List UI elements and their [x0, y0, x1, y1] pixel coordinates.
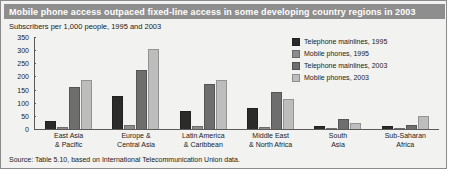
x-axis-category-line: Latin America: [170, 132, 237, 141]
legend-label: Telephone mainlines, 2003: [304, 62, 387, 69]
x-axis-category-line: & North Africa: [237, 141, 304, 150]
x-axis-category-label: Latin America& Caribbean: [170, 132, 237, 149]
x-axis-category-line: & Caribbean: [170, 141, 237, 150]
y-axis-tick-label: 200: [17, 73, 29, 80]
legend-label: Mobile phones, 1995: [304, 50, 369, 57]
bar: [350, 123, 361, 129]
legend-label: Mobile phones, 2003: [304, 74, 369, 81]
chart-legend: Telephone mainlines, 1995Mobile phones, …: [292, 36, 387, 84]
source-note: Source: Table 5.10, based on Internation…: [9, 156, 240, 163]
y-axis-tick-label: 250: [17, 60, 29, 67]
x-axis-category-line: & Pacific: [35, 141, 102, 150]
x-axis-category-line: Africa: [372, 141, 439, 150]
x-axis-category-label: Sub-SaharanAfrica: [372, 132, 439, 149]
x-axis-category-label: SouthAsia: [304, 132, 371, 149]
x-axis-category-line: Asia: [304, 141, 371, 150]
bar: [81, 80, 92, 129]
legend-swatch: [292, 74, 300, 82]
legend-swatch: [292, 38, 300, 46]
legend-item: Mobile phones, 2003: [292, 72, 387, 83]
bar: [418, 116, 429, 129]
y-axis-tick-label: 0: [25, 126, 29, 133]
bar: [259, 127, 270, 129]
bar: [314, 126, 325, 129]
bar: [338, 119, 349, 130]
bar: [382, 126, 393, 129]
chart-subtitle: Subscribers per 1,000 people, 1995 and 2…: [9, 22, 161, 31]
bar: [148, 49, 159, 129]
bar-set: [102, 37, 169, 129]
bar-set: [35, 37, 102, 129]
y-axis-tick-label: 300: [17, 47, 29, 54]
bar: [180, 111, 191, 129]
bar-group: East Asia& Pacific: [35, 37, 102, 129]
bar: [216, 80, 227, 129]
y-axis-tick-label: 150: [17, 86, 29, 93]
bar: [406, 125, 417, 129]
chart-title-bar: Mobile phone access outpaced fixed-line …: [4, 4, 445, 19]
legend-swatch: [292, 50, 300, 58]
legend-item: Mobile phones, 1995: [292, 48, 387, 59]
x-axis-category-line: South: [304, 132, 371, 141]
bar: [57, 127, 68, 129]
legend-label: Telephone mainlines, 1995: [304, 38, 387, 45]
y-axis-tick-label: 50: [21, 112, 29, 119]
x-axis-category-line: Middle East: [237, 132, 304, 141]
legend-item: Telephone mainlines, 2003: [292, 60, 387, 71]
x-axis-category-label: Middle East& North Africa: [237, 132, 304, 149]
bar: [204, 84, 215, 129]
x-axis-category-line: Sub-Saharan: [372, 132, 439, 141]
chart-title: Mobile phone access outpaced fixed-line …: [4, 7, 416, 17]
x-axis-category-line: East Asia: [35, 132, 102, 141]
bar-set: [170, 37, 237, 129]
bar: [136, 70, 147, 129]
y-axis-tick-label: 350: [17, 34, 29, 41]
bar: [112, 96, 123, 129]
x-axis-category-label: East Asia& Pacific: [35, 132, 102, 149]
x-axis-category-label: Europe &Central Asia: [102, 132, 169, 149]
bar: [124, 125, 135, 129]
x-axis-category-line: Central Asia: [102, 141, 169, 150]
legend-swatch: [292, 62, 300, 70]
x-axis-category-line: Europe &: [102, 132, 169, 141]
bar: [192, 126, 203, 129]
bar: [45, 121, 56, 129]
bar: [247, 108, 258, 129]
bar: [283, 99, 294, 129]
bar: [326, 128, 337, 130]
bar: [394, 128, 405, 130]
y-axis-tick-label: 100: [17, 99, 29, 106]
chart-figure: Mobile phone access outpaced fixed-line …: [0, 0, 447, 169]
bar-group: Europe &Central Asia: [102, 37, 169, 129]
bar-group: Latin America& Caribbean: [170, 37, 237, 129]
bar: [69, 87, 80, 129]
bar: [271, 92, 282, 129]
y-axis: 050100150200250300350: [3, 31, 32, 135]
legend-item: Telephone mainlines, 1995: [292, 36, 387, 47]
